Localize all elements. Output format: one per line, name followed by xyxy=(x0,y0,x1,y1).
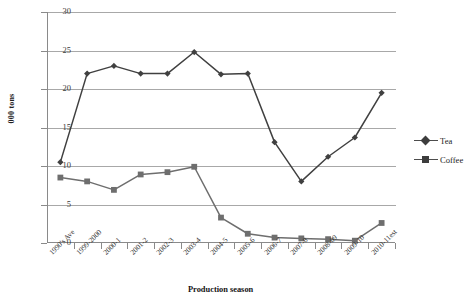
y-axis-tick-mark xyxy=(41,205,47,206)
legend-marker-coffee xyxy=(414,155,438,165)
legend-marker-tea xyxy=(414,136,438,146)
y-axis-tick-mark xyxy=(41,243,47,244)
y-axis-tick-mark xyxy=(41,166,47,167)
data-point-coffee-1 xyxy=(84,179,90,185)
legend-item-coffee[interactable]: Coffee xyxy=(414,150,463,169)
x-axis-tick-mark xyxy=(261,243,262,249)
legend-item-tea[interactable]: Tea xyxy=(414,131,463,150)
x-axis-tick-mark xyxy=(101,243,102,249)
data-point-tea-1 xyxy=(84,71,90,77)
data-point-coffee-3 xyxy=(138,172,144,178)
x-axis-tick-mark xyxy=(341,243,342,249)
series-line-coffee xyxy=(60,167,381,241)
x-axis-tick-mark xyxy=(234,243,235,249)
line-chart: 000 tons Production season Tea Coffee 05… xyxy=(0,0,472,307)
y-axis-tick-mark xyxy=(41,128,47,129)
y-axis-tick-mark xyxy=(41,51,47,52)
y-axis-tick-mark xyxy=(41,89,47,90)
data-point-coffee-2 xyxy=(111,187,117,193)
data-point-coffee-4 xyxy=(165,169,171,175)
x-axis-tick-mark xyxy=(127,243,128,249)
data-point-coffee-6 xyxy=(218,215,224,221)
x-axis-tick-mark xyxy=(395,243,396,249)
y-axis-tick-mark xyxy=(41,12,47,13)
data-point-coffee-12 xyxy=(379,220,385,226)
data-point-coffee-5 xyxy=(191,164,197,170)
x-axis-tick-mark xyxy=(208,243,209,249)
legend-label-tea: Tea xyxy=(440,136,452,146)
legend-label-coffee: Coffee xyxy=(440,155,463,165)
chart-legend: Tea Coffee xyxy=(414,131,463,169)
data-point-tea-2 xyxy=(111,63,117,69)
data-point-tea-3 xyxy=(138,71,144,77)
data-point-tea-7 xyxy=(245,71,251,77)
x-axis-tick-mark xyxy=(368,243,369,249)
data-point-coffee-0 xyxy=(57,175,63,181)
